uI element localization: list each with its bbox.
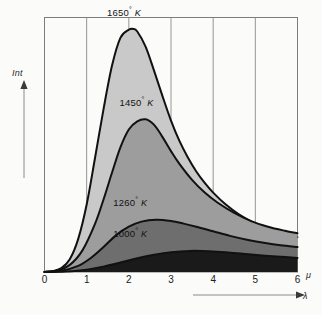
series-label-1000k: 1000° K (113, 227, 147, 239)
y-axis-arrow (20, 80, 27, 178)
series-label-1650k: 1650° K (107, 6, 141, 18)
series-label-1450k: 1450° K (120, 96, 154, 108)
kelvin-symbol: K (141, 229, 147, 239)
kelvin-symbol: K (147, 98, 153, 108)
series-label-1260k: 1260° K (113, 196, 147, 208)
series-label-1650k-value: 1650 (107, 7, 129, 18)
degree-symbol: ° (135, 227, 138, 234)
degree-symbol: ° (135, 196, 138, 203)
kelvin-symbol: K (141, 199, 147, 209)
series-label-1000k-value: 1000 (113, 228, 135, 239)
x-tick-label-2: 2 (121, 274, 137, 285)
x-tick-label-6: 6 (290, 274, 306, 285)
x-tick-label-0: 0 (37, 274, 53, 285)
x-tick-label-3: 3 (163, 274, 179, 285)
x-axis-label: λ (303, 291, 308, 301)
degree-symbol: ° (142, 96, 145, 103)
x-tick-label-4: 4 (205, 274, 221, 285)
x-axis-unit-label: μ (306, 270, 311, 280)
blackbody-spectra-chart: Int λ μ 0123456 1650° K 1450° K 1260° K … (0, 0, 322, 315)
series-label-1450k-value: 1450 (120, 97, 142, 108)
y-axis-label: Int (12, 68, 23, 78)
x-tick-label-5: 5 (247, 274, 263, 285)
series-label-1260k-value: 1260 (113, 198, 135, 209)
x-tick-label-1: 1 (79, 274, 95, 285)
chart-canvas (0, 0, 322, 315)
degree-symbol: ° (129, 6, 132, 13)
kelvin-symbol: K (135, 8, 141, 18)
x-axis-arrow (193, 291, 305, 298)
